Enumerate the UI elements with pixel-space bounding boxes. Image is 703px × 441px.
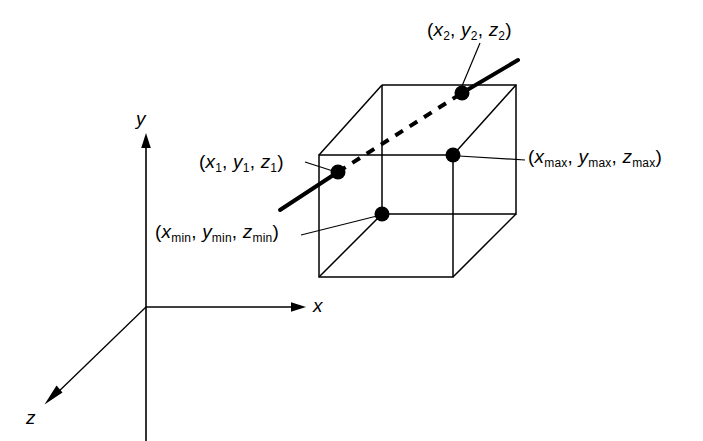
y-axis-label: y xyxy=(136,109,146,128)
sub-y: max xyxy=(588,156,611,170)
comma-2: , xyxy=(232,221,243,242)
paren-close: ) xyxy=(655,146,662,167)
y-axis-arrowhead xyxy=(141,133,151,148)
var-x: x xyxy=(162,221,172,242)
var-x: x xyxy=(434,19,444,40)
label-point-p1: (x1, y1, z1) xyxy=(199,152,284,171)
label-min-corner: (xmin, ymin, zmin) xyxy=(155,222,279,241)
z-axis-line xyxy=(54,307,146,396)
box-edge-bottom-left xyxy=(319,214,382,277)
var-z: z xyxy=(489,19,499,40)
leader-lines-group xyxy=(301,43,525,235)
figure-canvas: x y z (x1, y1, z1) (x2, y2, z2) (xmin, y… xyxy=(0,0,703,441)
sub-y: 1 xyxy=(243,161,250,175)
comma-1: , xyxy=(450,19,461,40)
sub-z: 1 xyxy=(270,161,277,175)
point-p1 xyxy=(331,165,346,180)
var-z: z xyxy=(243,221,253,242)
segment-inside-dashed xyxy=(338,93,462,172)
sub-z: min xyxy=(252,231,272,245)
sub-x: 2 xyxy=(443,29,450,43)
leader-p2 xyxy=(462,43,480,86)
var-y: y xyxy=(578,146,588,167)
comma-2: , xyxy=(478,19,489,40)
box-edge-top-left xyxy=(319,85,382,155)
z-axis-arrowhead xyxy=(45,386,63,405)
x-axis-arrowhead xyxy=(291,302,306,312)
figure-vector-layer xyxy=(0,0,703,441)
sub-z: 2 xyxy=(498,29,505,43)
var-x: x xyxy=(535,146,545,167)
point-max-corner xyxy=(446,148,461,163)
segment-outside-lower xyxy=(280,172,338,210)
leader-max xyxy=(459,156,525,160)
label-max-corner: (xmax, ymax, zmax) xyxy=(528,147,662,166)
bounding-box-group xyxy=(319,85,516,277)
label-point-p2: (x2, y2, z2) xyxy=(427,20,512,39)
var-z: z xyxy=(261,151,271,172)
sub-z: max xyxy=(632,156,655,170)
paren-close: ) xyxy=(272,221,279,242)
var-z: z xyxy=(622,146,632,167)
line-segment-group xyxy=(280,60,518,210)
sub-x: 1 xyxy=(215,161,222,175)
x-axis-label: x xyxy=(313,296,323,315)
comma-1: , xyxy=(568,146,579,167)
axes-group xyxy=(45,133,307,441)
box-edge-bottom-right xyxy=(453,214,516,277)
sub-y: 2 xyxy=(471,29,478,43)
sub-x: min xyxy=(171,231,191,245)
sub-y: min xyxy=(212,231,232,245)
comma-2: , xyxy=(611,146,622,167)
sub-x: max xyxy=(544,156,567,170)
var-x: x xyxy=(206,151,216,172)
point-min-corner xyxy=(375,207,390,222)
comma-2: , xyxy=(250,151,261,172)
comma-1: , xyxy=(222,151,233,172)
comma-1: , xyxy=(191,221,202,242)
z-axis-label: z xyxy=(26,408,36,427)
paren-close: ) xyxy=(505,19,512,40)
var-y: y xyxy=(202,221,212,242)
paren-close: ) xyxy=(277,151,284,172)
point-p2 xyxy=(455,86,470,101)
var-y: y xyxy=(461,19,471,40)
leader-min xyxy=(301,216,377,235)
point-markers-group xyxy=(331,86,470,222)
var-y: y xyxy=(233,151,243,172)
